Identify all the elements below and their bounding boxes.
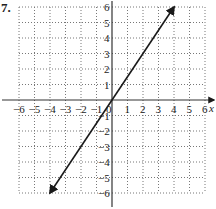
y-tick-label: −3 bbox=[98, 142, 110, 153]
x-tick-label: 6 bbox=[202, 104, 208, 115]
y-tick-label: −5 bbox=[98, 173, 110, 184]
x-axis-label: x bbox=[209, 103, 214, 114]
y-tick-label: 4 bbox=[104, 33, 110, 44]
y-tick-label: 6 bbox=[104, 2, 110, 13]
x-tick-label: −4 bbox=[44, 104, 56, 115]
x-tick-label: 5 bbox=[187, 104, 193, 115]
y-tick-label: −4 bbox=[98, 157, 110, 168]
x-tick-label: −5 bbox=[29, 104, 41, 115]
y-tick-label: −6 bbox=[98, 188, 110, 199]
y-tick-label: 1 bbox=[104, 80, 110, 91]
y-tick-label: 2 bbox=[104, 64, 110, 75]
x-tick-label: −6 bbox=[13, 104, 25, 115]
y-tick-label: −2 bbox=[98, 126, 110, 137]
y-tick-label: 5 bbox=[104, 18, 110, 29]
x-tick-label: 3 bbox=[156, 104, 162, 115]
x-tick-label: −3 bbox=[60, 104, 72, 115]
x-tick-label: 4 bbox=[171, 104, 177, 115]
y-tick-label: −1 bbox=[98, 111, 110, 122]
y-tick-label: 3 bbox=[104, 49, 110, 60]
x-tick-label: 2 bbox=[140, 104, 146, 115]
x-tick-label: −2 bbox=[75, 104, 87, 115]
x-tick-label: 1 bbox=[125, 104, 131, 115]
